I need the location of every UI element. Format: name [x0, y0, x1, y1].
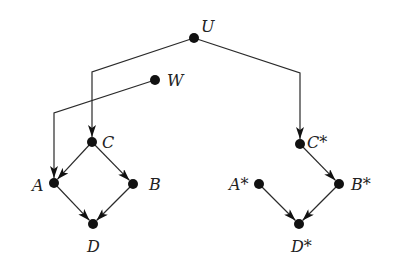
node-bs — [334, 179, 344, 189]
node-label-d: D — [86, 237, 100, 256]
edges-layer — [54, 38, 339, 220]
node-w — [150, 75, 160, 85]
causal-graph-diagram: UWCABDC*A*B*D* — [0, 0, 399, 277]
node-as — [254, 179, 264, 189]
node-label-ds: D* — [290, 237, 312, 256]
edge-c-to-a — [57, 142, 92, 179]
node-label-as: A* — [227, 175, 249, 194]
node-u — [189, 33, 199, 43]
node-c — [87, 137, 97, 147]
node-ds — [294, 219, 304, 229]
labels-layer: UWCABDC*A*B*D* — [30, 17, 371, 256]
node-label-b: B — [148, 175, 161, 194]
edge-u-to-cs — [194, 38, 300, 139]
node-a — [49, 178, 59, 188]
node-label-c: C — [102, 133, 114, 152]
node-label-cs: C* — [307, 133, 327, 152]
edge-w-to-a — [54, 80, 155, 178]
edge-b-to-d — [97, 184, 133, 220]
edge-a-to-d — [54, 183, 90, 220]
node-label-bs: B* — [350, 175, 371, 194]
edge-as-to-ds — [259, 184, 295, 220]
node-d — [88, 219, 98, 229]
node-label-u: U — [201, 17, 215, 36]
node-label-a: A — [30, 176, 44, 195]
node-label-w: W — [167, 71, 185, 90]
node-cs — [295, 139, 305, 149]
edge-bs-to-ds — [303, 184, 339, 220]
node-b — [128, 179, 138, 189]
